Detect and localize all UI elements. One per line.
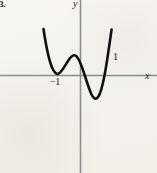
problem-number-label: 3. <box>0 0 5 9</box>
x-tick-label-one: 1 <box>113 52 118 62</box>
quartic-curve <box>44 29 112 99</box>
graph-plot <box>0 0 157 173</box>
x-axis-label: x <box>145 71 149 81</box>
x-tick-label-negative-one: −1 <box>50 77 60 87</box>
figure-container: 3. y x −1 1 <box>0 0 157 173</box>
y-axis-label: y <box>73 0 77 9</box>
